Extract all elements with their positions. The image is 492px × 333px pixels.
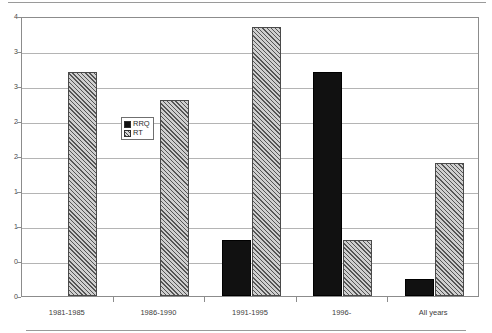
y-axis-tick-label: 2	[0, 118, 18, 126]
x-axis-tick-mark	[113, 297, 114, 302]
y-axis-tick-label: 0	[0, 258, 18, 266]
y-axis-tick-label: 1	[0, 188, 18, 196]
bar-rt-1981-1985	[68, 72, 97, 296]
bar-rt-All years	[435, 163, 464, 296]
bar-rt-1986-1990	[160, 100, 189, 296]
legend-label-rt: RT	[133, 129, 143, 137]
bar-rt-1991-1995	[252, 27, 281, 297]
solid-black-swatch-icon	[124, 121, 131, 128]
x-axis-tick-label: 1981-1985	[49, 308, 85, 317]
y-axis-tick-label: 3	[0, 83, 18, 91]
scan-artifact-line-bottom	[26, 330, 466, 331]
y-axis-tick-label: 4	[0, 13, 18, 21]
bar-rt-1996-	[343, 240, 372, 296]
x-axis-tick-label: 1991-1995	[232, 308, 268, 317]
x-axis-tick-mark	[204, 297, 205, 302]
legend-item-rt: RT	[124, 129, 150, 137]
scan-artifact-line-top	[8, 2, 486, 3]
legend-label-rrq: RRQ	[133, 120, 150, 128]
y-axis-tick-label: 2	[0, 153, 18, 161]
y-axis-tick-label: 3	[0, 48, 18, 56]
x-axis-tick-mark	[296, 297, 297, 302]
chart-legend: RRQ RT	[121, 117, 154, 140]
bar-chart-figure: 001122334 RRQ RT 1981-19851986-19901991-…	[0, 0, 492, 333]
bar-rrq-1996-	[313, 72, 342, 296]
x-axis-ticks	[21, 297, 479, 303]
x-axis-tick-label: All years	[419, 308, 448, 317]
y-axis-tick-label: 0	[0, 293, 18, 301]
y-axis-tick-label: 1	[0, 223, 18, 231]
x-axis-tick-label: 1986-1990	[140, 308, 176, 317]
x-axis-tick-mark	[387, 297, 388, 302]
bar-rrq-1991-1995	[222, 240, 251, 296]
x-axis-labels: 1981-19851986-19901991-19951996-All year…	[21, 308, 479, 322]
plot-area: RRQ RT	[21, 17, 479, 297]
legend-item-rrq: RRQ	[124, 120, 150, 128]
bar-rrq-All years	[405, 279, 434, 297]
hatched-swatch-icon	[124, 130, 131, 137]
x-axis-tick-label: 1996-	[332, 308, 351, 317]
gridline	[22, 53, 478, 54]
